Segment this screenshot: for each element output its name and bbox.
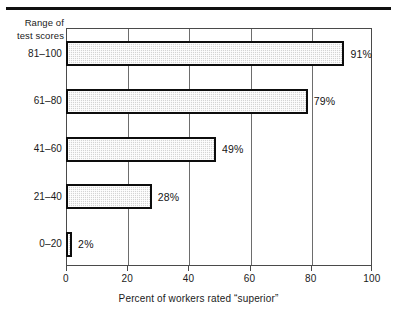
y-axis-title: Range of test scores — [8, 17, 64, 42]
bar — [66, 41, 344, 66]
x-tick-label: 60 — [244, 273, 256, 284]
x-axis-title: Percent of workers rated “superior” — [0, 293, 397, 304]
y-axis-title-line-1: Range of — [8, 17, 64, 30]
bar-value-label: 91% — [350, 48, 372, 60]
y-axis-tick-label: 21–40 — [0, 190, 62, 201]
bar-value-label: 79% — [314, 95, 336, 107]
top-horizontal-rule — [6, 7, 391, 10]
y-axis-tick-label: 0–20 — [0, 238, 62, 249]
bar-row: 91% — [67, 41, 373, 66]
bar-value-label: 28% — [158, 191, 180, 203]
bar — [66, 232, 72, 257]
bar-row: 79% — [67, 89, 373, 114]
bar-row: 28% — [67, 184, 373, 209]
x-tick-mark — [311, 266, 312, 271]
x-axis-ticks: 020406080100 — [66, 266, 372, 272]
x-tick-label: 100 — [363, 273, 380, 284]
bar-value-label: 49% — [222, 143, 244, 155]
bar — [66, 89, 308, 114]
y-axis-tick-label: 81–100 — [0, 47, 62, 58]
x-tick-label: 40 — [183, 273, 195, 284]
plot-area: 91%79%49%28%2% — [66, 28, 372, 266]
bar — [66, 184, 152, 209]
y-axis-tick-label: 61–80 — [0, 95, 62, 106]
x-tick-mark — [66, 266, 67, 271]
x-tick-label: 0 — [63, 273, 69, 284]
bar — [66, 137, 216, 162]
bar-series: 91%79%49%28%2% — [67, 29, 371, 265]
x-tick-mark — [127, 266, 128, 271]
x-tick-label: 80 — [305, 273, 317, 284]
x-tick-label: 20 — [121, 273, 133, 284]
y-axis-title-line-2: test scores — [8, 30, 64, 43]
y-axis-tick-label: 41–60 — [0, 143, 62, 154]
x-tick-mark — [250, 266, 251, 271]
bar-row: 2% — [67, 232, 373, 257]
bar-value-label: 2% — [78, 238, 94, 250]
x-tick-mark — [188, 266, 189, 271]
bar-row: 49% — [67, 137, 373, 162]
x-tick-mark — [371, 266, 372, 271]
